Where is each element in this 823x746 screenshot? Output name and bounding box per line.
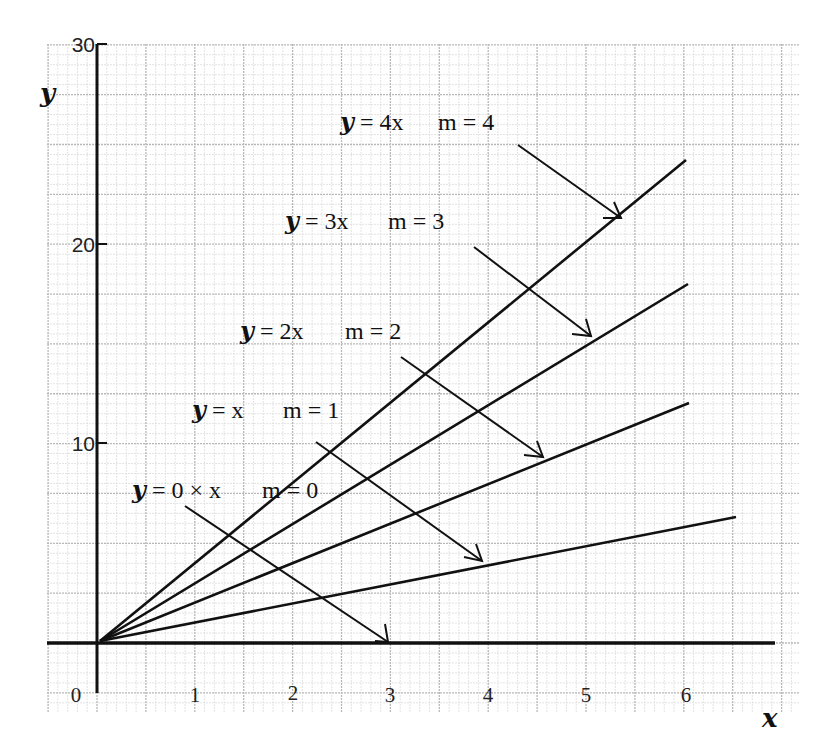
x-tick-2: 2 bbox=[288, 681, 299, 705]
label-line0: y = 0 × x m = 0 bbox=[131, 475, 318, 504]
x-tick-0: 0 bbox=[71, 683, 82, 707]
x-tick-5: 5 bbox=[581, 683, 592, 707]
svg-text:y = 0 × x: y = 0 × x bbox=[131, 475, 221, 504]
svg-text:y = x: y = x bbox=[191, 395, 244, 424]
label-line2: y = 2x m = 2 bbox=[239, 316, 401, 345]
svg-text:m = 2: m = 2 bbox=[345, 318, 401, 344]
label-line4: y = 4x m = 4 bbox=[339, 107, 494, 136]
y-axis-label: y bbox=[39, 78, 57, 108]
label-line1: y = x m = 1 bbox=[191, 395, 339, 424]
arrow-2 bbox=[401, 357, 543, 457]
arrow-3 bbox=[474, 247, 591, 336]
line-y-2x bbox=[100, 403, 689, 641]
grid-major bbox=[47, 44, 800, 712]
x-tick-1: 1 bbox=[190, 683, 201, 707]
label-line3: y = 3x m = 3 bbox=[284, 206, 444, 235]
x-tick-6: 6 bbox=[681, 683, 692, 707]
svg-text:m = 3: m = 3 bbox=[388, 208, 444, 234]
svg-text:y = 2x: y = 2x bbox=[239, 316, 304, 345]
y-tick-20: 20 bbox=[72, 233, 95, 256]
x-tick-3: 3 bbox=[385, 683, 396, 707]
svg-text:m = 1: m = 1 bbox=[283, 397, 339, 423]
x-axis-label: x bbox=[761, 703, 778, 733]
y-tick-30: 30 bbox=[72, 33, 95, 56]
svg-text:m = 0: m = 0 bbox=[262, 477, 318, 503]
x-tick-4: 4 bbox=[483, 683, 494, 707]
svg-text:m = 4: m = 4 bbox=[438, 109, 494, 135]
svg-text:y = 3x: y = 3x bbox=[284, 206, 349, 235]
slope-chart: 30 20 10 0 1 2 3 4 5 6 x y y = 4x m = 4 … bbox=[0, 0, 823, 746]
y-tick-10: 10 bbox=[72, 432, 95, 455]
svg-text:y = 4x: y = 4x bbox=[339, 107, 404, 136]
